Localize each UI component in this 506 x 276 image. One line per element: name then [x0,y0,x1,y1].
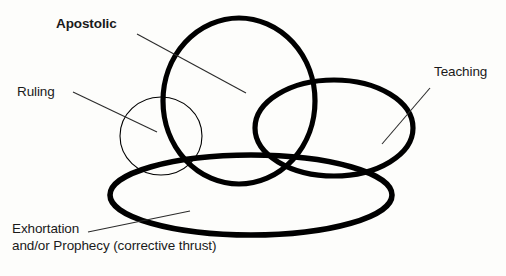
label-exhortation-line-1: Exhortation [12,220,272,237]
diagram-canvas: Apostolic Ruling Teaching Exhortation an… [0,0,506,276]
label-exhortation: Exhortation and/or Prophecy (corrective … [12,220,272,254]
label-ruling: Ruling [17,84,55,99]
ruling-leader-line [73,92,157,132]
label-exhortation-line-2: and/or Prophecy (corrective thrust) [12,237,272,254]
apostolic-leader-line [137,34,246,93]
label-teaching: Teaching [434,64,487,79]
label-apostolic: Apostolic [56,16,117,31]
